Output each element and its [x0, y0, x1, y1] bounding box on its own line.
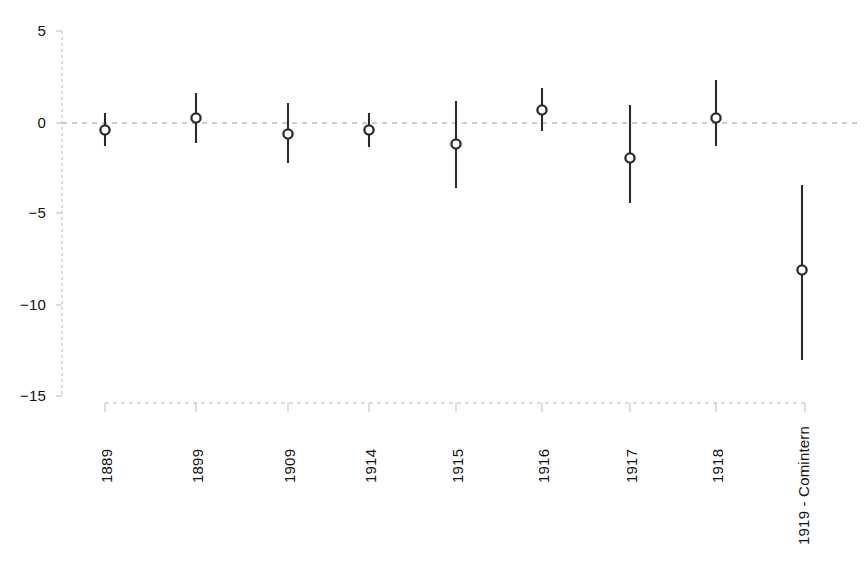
plot-background	[0, 0, 865, 564]
coefficient-plot	[0, 0, 865, 564]
point-marker	[711, 113, 720, 122]
point-marker	[191, 113, 200, 122]
y-tick-label-minus5: −5	[6, 204, 46, 221]
point-marker	[283, 129, 292, 138]
x-tick-label-1909: 1909	[281, 449, 298, 483]
point-marker	[364, 125, 373, 134]
x-tick-label-1916: 1916	[535, 449, 552, 483]
x-tick-label-1919-comintern: 1919 - Comintern	[795, 426, 812, 545]
x-tick-label-1917: 1917	[623, 449, 640, 483]
point-marker	[625, 153, 634, 162]
x-tick-label-1899: 1899	[189, 449, 206, 483]
x-tick-label-1889: 1889	[98, 449, 115, 483]
x-tick-label-1914: 1914	[362, 449, 379, 483]
x-tick-label-1915: 1915	[449, 449, 466, 483]
y-tick-label-5: 5	[6, 22, 46, 39]
point-marker	[100, 125, 109, 134]
x-tick-label-1918: 1918	[709, 449, 726, 483]
y-tick-label-0: 0	[6, 114, 46, 131]
y-tick-label-minus10: −10	[0, 296, 46, 313]
chart-container: 5 0 −5 −10 −15 1889 1899 1909 1914 1915 …	[0, 0, 865, 564]
point-marker	[451, 139, 460, 148]
point-marker	[797, 265, 806, 274]
y-tick-label-minus15: −15	[0, 387, 46, 404]
point-marker	[537, 105, 546, 114]
